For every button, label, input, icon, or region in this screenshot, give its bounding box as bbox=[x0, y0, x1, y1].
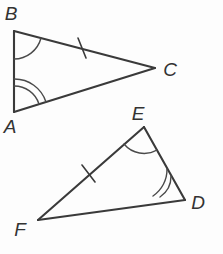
triangle-abc: B C A bbox=[3, 3, 177, 137]
geometry-figure: B C A E D F bbox=[0, 0, 223, 254]
angle-arc-e-1 bbox=[124, 144, 157, 153]
triangle-def-edge-ed bbox=[144, 127, 185, 200]
geometry-canvas: B C A E D F bbox=[0, 0, 223, 254]
triangle-def-edge-fd bbox=[38, 200, 185, 220]
vertex-label-c: C bbox=[163, 59, 177, 80]
angle-arc-b-1 bbox=[14, 38, 41, 59]
vertex-label-a: A bbox=[3, 116, 17, 137]
angle-arc-a-1 bbox=[14, 86, 39, 104]
vertex-label-e: E bbox=[132, 103, 145, 124]
vertex-label-f: F bbox=[14, 219, 27, 240]
vertex-label-d: D bbox=[191, 192, 205, 213]
vertex-label-b: B bbox=[5, 3, 18, 24]
triangle-def-edge-ef bbox=[38, 127, 144, 220]
triangle-def: E D F bbox=[14, 103, 205, 240]
